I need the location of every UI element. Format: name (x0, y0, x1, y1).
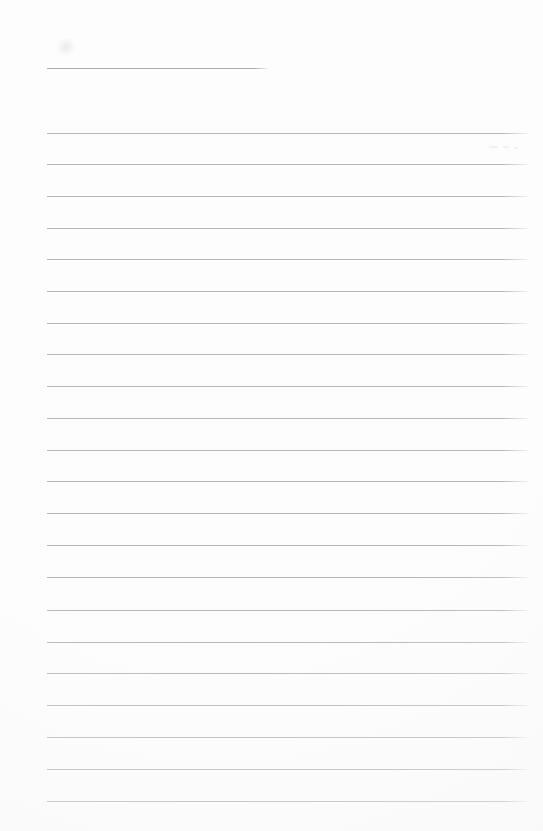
ruled-line (47, 291, 528, 292)
ruled-line (47, 450, 528, 451)
ruled-line (47, 737, 528, 738)
ruled-line (47, 545, 528, 546)
ruled-line (47, 642, 528, 643)
ruled-line (47, 386, 528, 387)
scanned-page (0, 0, 543, 831)
ruled-line (47, 801, 528, 802)
ruled-line (47, 705, 528, 706)
title-rule (47, 68, 268, 69)
paper-surface (0, 0, 543, 831)
ruled-line (47, 513, 528, 514)
ruled-line (47, 673, 528, 674)
ruled-line (47, 769, 528, 770)
ruled-line (47, 418, 528, 419)
ruled-line (47, 228, 528, 229)
ruled-line (47, 164, 528, 165)
ruled-line (47, 610, 528, 611)
ruled-line (47, 481, 528, 482)
ruled-line (47, 133, 528, 134)
ruled-line (47, 259, 528, 260)
ruled-line (47, 577, 528, 578)
ruled-line (47, 196, 528, 197)
ruled-line (47, 323, 528, 324)
ruled-line (47, 354, 528, 355)
